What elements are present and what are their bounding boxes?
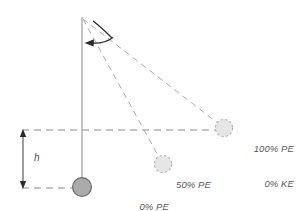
energy-label-mid-swing: 50% PE 50% KE <box>176 156 286 211</box>
angle-arrowhead-icon <box>85 39 95 46</box>
height-label: h <box>34 152 40 164</box>
pendulum-energy-diagram: h 100% PE 0% KE 50% PE 50% KE 0% PE 100%… <box>0 0 299 211</box>
swing-path-to-max-displacement <box>83 19 219 124</box>
energy-label-mid-swing-pe: 50% PE <box>176 179 286 191</box>
energy-label-lowest-point-pe: 0% PE <box>75 201 169 211</box>
angle-arc <box>93 21 112 38</box>
energy-label-lowest-point: 0% PE 100% KE <box>75 178 169 211</box>
energy-label-max-displacement-pe: 100% PE <box>175 143 294 155</box>
swing-path-to-mid-swing <box>83 19 160 159</box>
bob-mid-swing <box>154 155 171 172</box>
